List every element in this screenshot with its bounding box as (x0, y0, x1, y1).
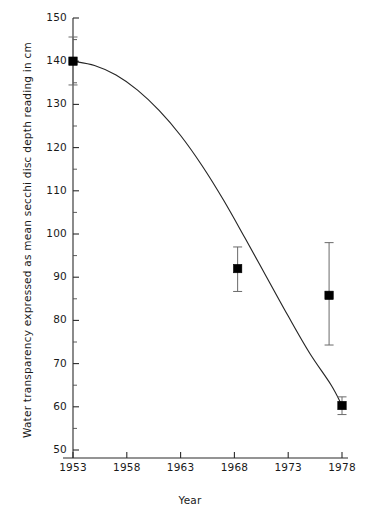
y-tick-label: 90 (33, 270, 67, 282)
x-tick-label: 1968 (211, 461, 257, 473)
y-tick-label: 140 (33, 54, 67, 66)
trend-curve (73, 61, 342, 405)
x-tick-label: 1978 (319, 461, 365, 473)
x-tick-label: 1958 (104, 461, 150, 473)
data-markers (69, 57, 347, 410)
y-tick-label: 120 (33, 141, 67, 153)
x-tick-label: 1963 (158, 461, 204, 473)
data-point-marker (233, 264, 242, 273)
data-point-marker (338, 401, 347, 410)
y-tick-label: 70 (33, 357, 67, 369)
x-tick-label: 1953 (50, 461, 96, 473)
y-tick-label: 110 (33, 184, 67, 196)
y-tick-label: 130 (33, 97, 67, 109)
chart-figure: Water transparency expressed as mean sec… (0, 0, 367, 523)
y-tick-label: 60 (33, 400, 67, 412)
x-axis-ticks (73, 452, 342, 458)
data-point-marker (69, 57, 78, 65)
y-tick-label: 150 (33, 11, 67, 23)
y-tick-label: 80 (33, 313, 67, 325)
y-tick-label: 50 (33, 443, 67, 455)
axis-group (63, 18, 348, 458)
y-axis-ticks (73, 18, 79, 450)
error-bars (69, 37, 347, 415)
x-tick-label: 1973 (265, 461, 311, 473)
y-tick-label: 100 (33, 227, 67, 239)
data-point-marker (325, 291, 334, 300)
fit-curve-path (73, 61, 342, 405)
